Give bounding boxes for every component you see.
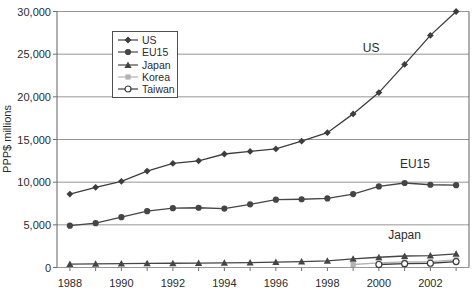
series-marker-eu15 — [170, 205, 176, 211]
series-marker-eu15 — [324, 195, 330, 201]
series-marker-us — [272, 145, 279, 152]
chart-svg: PPP$ millions 05,00010,00015,00020,00025… — [0, 0, 473, 293]
legend-item-japan: Japan — [117, 59, 174, 71]
legend-label: Korea — [142, 71, 170, 83]
x-tick-label: 1996 — [264, 277, 288, 289]
series-marker-eu15 — [427, 182, 433, 188]
legend-item-korea: Korea — [117, 71, 174, 83]
y-tick-label: 15,000 — [17, 134, 51, 146]
series-marker-eu15 — [402, 180, 408, 186]
us-legend-marker-icon — [117, 35, 139, 45]
x-tick-label: 2000 — [367, 277, 391, 289]
annotation-us: US — [363, 41, 380, 55]
taiwan-legend-glyph — [125, 86, 131, 92]
korea-legend-glyph — [125, 74, 130, 79]
series-marker-eu15 — [221, 206, 227, 212]
series-marker-taiwan — [402, 261, 408, 267]
legend-item-eu15: EU15 — [117, 46, 174, 58]
series-marker-taiwan — [453, 259, 459, 265]
x-tick-label: 2002 — [418, 277, 442, 289]
x-tick-label: 1990 — [109, 277, 133, 289]
x-tick-label: 1992 — [161, 277, 185, 289]
series-marker-eu15 — [273, 197, 279, 203]
taiwan-legend-marker-icon — [117, 84, 139, 94]
series-marker-eu15 — [196, 205, 202, 211]
legend-label: US — [142, 34, 157, 46]
series-marker-us — [298, 138, 305, 145]
eu15-legend-marker-icon — [117, 47, 139, 57]
series-marker-us — [169, 160, 176, 167]
chart-figure: PPP$ millions 05,00010,00015,00020,00025… — [0, 0, 473, 293]
series-marker-eu15 — [118, 214, 124, 220]
series-marker-eu15 — [453, 182, 459, 188]
series-marker-us — [247, 148, 254, 155]
legend-item-us: US — [117, 34, 174, 46]
y-tick-label: 10,000 — [17, 176, 51, 188]
series-marker-eu15 — [144, 208, 150, 214]
japan-legend-marker-icon — [117, 60, 139, 70]
y-tick-label: 20,000 — [17, 91, 51, 103]
eu15-legend-glyph — [125, 49, 131, 55]
chart-legend: USEU15JapanKoreaTaiwan — [112, 31, 178, 98]
y-tick-label: 30,000 — [17, 6, 51, 18]
annotation-japan: Japan — [388, 228, 421, 242]
legend-label: Japan — [142, 59, 171, 71]
y-axis-title: PPP$ millions — [1, 105, 13, 173]
series-marker-eu15 — [376, 183, 382, 189]
legend-label: EU15 — [142, 46, 168, 58]
us-legend-glyph — [125, 37, 132, 44]
series-marker-us — [118, 178, 125, 185]
series-marker-eu15 — [93, 220, 99, 226]
korea-legend-marker-icon — [117, 72, 139, 82]
series-marker-us — [221, 151, 228, 158]
x-tick-label: 1998 — [315, 277, 339, 289]
y-tick-label: 0 — [45, 262, 51, 274]
series-marker-eu15 — [247, 201, 253, 207]
series-marker-us — [92, 184, 99, 191]
x-tick-label: 1994 — [212, 277, 236, 289]
y-tick-label: 25,000 — [17, 48, 51, 60]
series-marker-eu15 — [350, 191, 356, 197]
series-marker-eu15 — [67, 223, 73, 229]
series-marker-us — [66, 191, 73, 198]
legend-label: Taiwan — [142, 83, 175, 95]
series-marker-eu15 — [299, 196, 305, 202]
series-line-eu15 — [70, 183, 456, 226]
y-tick-label: 5,000 — [23, 219, 51, 231]
series-marker-taiwan — [376, 262, 382, 268]
series-marker-taiwan — [427, 260, 433, 266]
series-marker-us — [195, 157, 202, 164]
series-marker-us — [144, 168, 151, 175]
x-tick-label: 1988 — [58, 277, 82, 289]
annotation-eu15: EU15 — [400, 157, 430, 171]
legend-item-taiwan: Taiwan — [117, 83, 174, 95]
series-marker-korea — [351, 262, 356, 267]
